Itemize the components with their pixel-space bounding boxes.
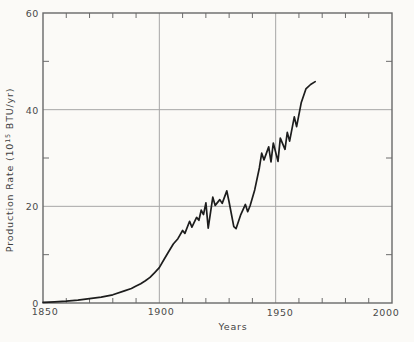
energy-production-chart: 0 20 40 60 1850 1900 1950 2000 Years Pro…	[0, 0, 414, 342]
y-axis-title: Production Rate (1015 BTU/yr)	[4, 88, 16, 252]
plot-border	[43, 13, 392, 303]
y-tick-label-20: 20	[26, 201, 39, 212]
x-tick-label-1900: 1900	[148, 306, 175, 317]
y-axis-title-suffix: BTU/yr)	[4, 88, 15, 133]
y-axis-title-superscript: 15	[4, 133, 12, 143]
y-tick-label-40: 40	[26, 105, 39, 116]
x-axis-tick-labels: 1850 1900 1950 2000	[32, 306, 400, 318]
x-tick-label-1850: 1850	[32, 306, 59, 317]
y-axis-tick-labels: 0 20 40 60	[26, 8, 39, 309]
plot-canvas: 0 20 40 60 1850 1900 1950 2000 Years Pro…	[0, 0, 414, 342]
x-tick-label-2000: 2000	[373, 307, 400, 318]
y-tick-label-60: 60	[26, 8, 39, 19]
x-tick-label-1950: 1950	[267, 307, 294, 318]
x-axis-title: Years	[217, 321, 247, 332]
production-curve	[43, 82, 315, 303]
gridlines	[43, 13, 392, 303]
minor-ticks	[43, 13, 392, 303]
y-axis-title-prefix: Production Rate (10	[4, 143, 15, 252]
